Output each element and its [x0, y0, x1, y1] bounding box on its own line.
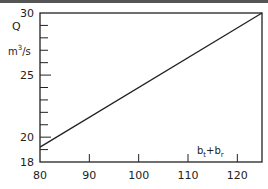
y-tick-label: 20	[20, 131, 34, 144]
y-tick-label: 30	[20, 7, 34, 20]
y-tick-label: 18	[20, 156, 34, 169]
x-tick-label: 90	[82, 169, 96, 182]
x-tick-label: 80	[33, 169, 47, 182]
y-tick-label: 25	[20, 69, 34, 82]
series-line	[40, 13, 262, 147]
y-axis-unit: m3/s	[8, 44, 31, 57]
x-tick-label: 100	[128, 169, 149, 182]
y-axis-label: Q	[12, 20, 21, 33]
plot-frame	[40, 13, 262, 162]
chart: 809010011012018202530 Q m3/s bt+br	[0, 0, 268, 189]
x-tick-label: 110	[178, 169, 199, 182]
x-tick-label: 120	[227, 169, 248, 182]
x-axis-label: bt+br	[197, 145, 224, 159]
